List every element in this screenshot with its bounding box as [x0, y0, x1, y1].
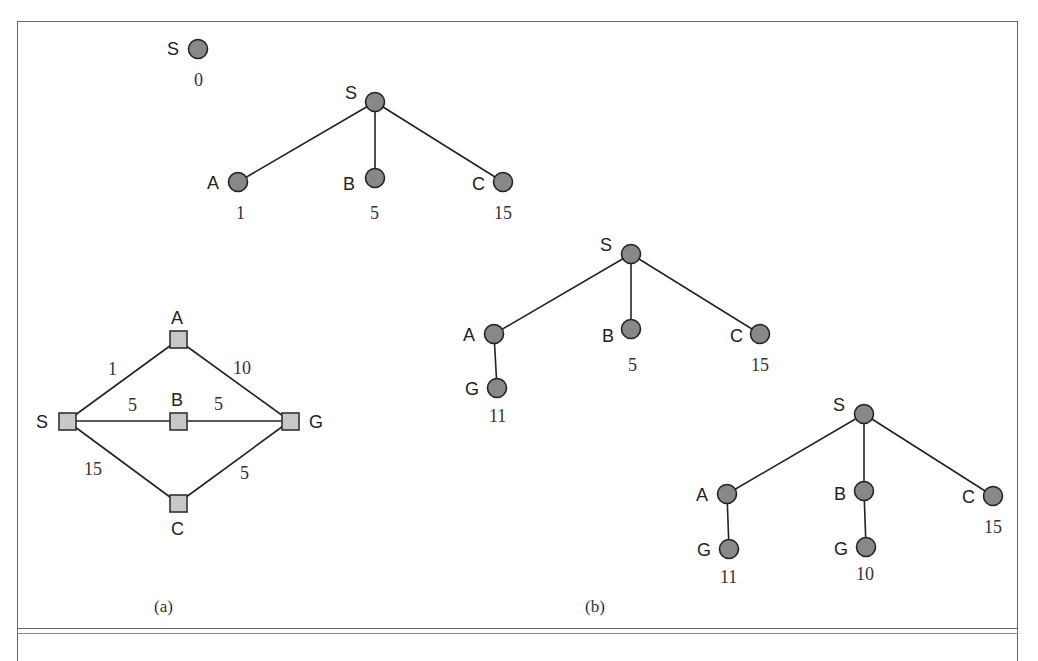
tree3-edge-s-c [631, 254, 760, 334]
graph-node-a [170, 331, 187, 348]
edge-a-g [178, 340, 290, 421]
tree4-node-ag [720, 540, 739, 559]
tree2-edge-s-a [238, 102, 375, 182]
tree4-label-a: A [696, 485, 708, 505]
tree3-node-s [622, 245, 641, 264]
search-tree-2: S A B C 1 5 15 [207, 83, 513, 223]
tree4-node-bg [857, 538, 876, 557]
weight-s-b: 5 [128, 395, 137, 415]
tree1-node-s [189, 40, 208, 59]
tree4-node-s [855, 405, 874, 424]
tree3-cost-g: 11 [489, 406, 506, 426]
tree4-cost-c: 15 [984, 517, 1002, 537]
graph-node-c [170, 495, 187, 512]
tree4-node-b [855, 482, 874, 501]
tree2-cost-c: 15 [494, 203, 512, 223]
graph-label-b: B [171, 390, 183, 410]
tree4-node-c [984, 487, 1003, 506]
tree1-label-s: S [167, 39, 179, 59]
graph-label-a: A [171, 308, 183, 328]
graph-node-b [170, 413, 187, 430]
edge-s-a [67, 340, 178, 421]
caption-b: (b) [585, 597, 605, 616]
graph-label-s: S [36, 412, 48, 432]
tree3-label-g: G [465, 379, 479, 399]
tree2-edge-s-c [375, 102, 503, 182]
search-tree-1: S 0 [167, 39, 208, 90]
tree4-label-s: S [833, 395, 845, 415]
tree3-node-b [622, 320, 641, 339]
tree3-node-c [751, 325, 770, 344]
weight-a-g: 10 [233, 358, 251, 378]
tree2-label-b: B [343, 174, 355, 194]
caption-a: (a) [154, 597, 173, 616]
tree2-node-b [366, 169, 385, 188]
graph-a: A S B G C 1 10 5 5 15 5 (a) [36, 308, 323, 616]
graph-node-s [59, 413, 76, 430]
weight-c-g: 5 [240, 463, 249, 483]
search-tree-4: S A B C G G 15 11 10 [696, 395, 1003, 587]
search-tree-3: S A B C G 5 15 11 [463, 235, 770, 426]
weight-s-a: 1 [108, 359, 117, 379]
tree4-edge-s-a [727, 414, 864, 494]
tree4-label-bg: G [834, 539, 848, 559]
tree2-cost-b: 5 [370, 203, 379, 223]
tree3-node-g [488, 379, 507, 398]
tree4-label-ag: G [697, 540, 711, 560]
tree4-label-b: B [834, 484, 846, 504]
weight-s-c: 15 [84, 459, 102, 479]
tree3-label-s: S [600, 235, 612, 255]
tree3-label-b: B [602, 326, 614, 346]
graph-node-g [282, 413, 299, 430]
weight-b-g: 5 [214, 394, 223, 414]
edge-c-g [178, 421, 290, 503]
tree4-edge-s-c [864, 414, 993, 496]
tree2-node-s [366, 93, 385, 112]
tree1-cost-s: 0 [194, 70, 203, 90]
tree2-label-s: S [345, 83, 357, 103]
tree4-label-c: C [962, 487, 975, 507]
tree3-cost-b: 5 [628, 355, 637, 375]
graph-label-g: G [309, 412, 323, 432]
tree2-label-c: C [472, 174, 485, 194]
graph-label-c: C [171, 519, 184, 539]
tree4-cost-bg: 10 [856, 564, 874, 584]
tree3-label-a: A [463, 325, 475, 345]
tree3-cost-c: 15 [751, 355, 769, 375]
tree4-node-a [718, 485, 737, 504]
tree3-label-c: C [730, 326, 743, 346]
tree2-node-a [229, 173, 248, 192]
tree2-label-a: A [207, 173, 219, 193]
tree3-node-a [485, 325, 504, 344]
tree2-cost-a: 1 [236, 203, 245, 223]
tree3-edge-s-a [494, 254, 631, 334]
tree4-cost-ag: 11 [720, 567, 737, 587]
tree2-node-c [494, 173, 513, 192]
